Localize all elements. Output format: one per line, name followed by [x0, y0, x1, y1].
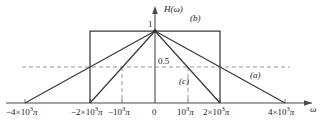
- tick-label-pos4-suffix: π: [290, 107, 295, 117]
- tick-label-neg2: −2×103π: [71, 108, 102, 117]
- tick-label-neg4-suffix: π: [33, 107, 38, 117]
- value-label-half: 0.5: [158, 57, 169, 66]
- tick-label-neg4-prefix: −4×10: [6, 107, 30, 117]
- tick-label-pos1-prefix: 10: [177, 107, 186, 117]
- tick-label-neg1: −103π: [108, 108, 130, 117]
- tick-label-pos4-prefix: 4×10: [268, 107, 287, 117]
- curve-label-c: (c): [179, 77, 189, 86]
- y-axis-arrowhead: [152, 6, 158, 14]
- tick-label-zero-prefix: 0: [152, 107, 157, 117]
- tick-label-pos2-prefix: 2×10: [203, 107, 222, 117]
- y-axis-label: H(ω): [164, 5, 183, 14]
- value-label-one: 1: [148, 20, 153, 29]
- frequency-response-figure: H(ω) ω 1 0.5 (a) (b) (c) −4×103π −2×103π…: [0, 0, 326, 137]
- apex-marker: [153, 29, 157, 33]
- tick-label-pos2: 2×103π: [203, 108, 229, 117]
- tick-label-neg4: −4×103π: [6, 108, 37, 117]
- tick-label-pos1: 103π: [177, 108, 194, 117]
- curve-label-a: (a): [250, 71, 261, 80]
- x-axis: [6, 100, 312, 106]
- curve-label-b: (b): [190, 14, 201, 23]
- tick-label-zero: 0: [152, 108, 157, 117]
- tick-label-pos4: 4×103π: [268, 108, 294, 117]
- tick-label-pos1-suffix: π: [189, 107, 194, 117]
- tick-label-neg2-suffix: π: [98, 107, 103, 117]
- y-axis: [152, 6, 158, 103]
- tick-label-pos2-suffix: π: [225, 107, 230, 117]
- tick-label-neg1-prefix: −10: [108, 107, 122, 117]
- tick-label-neg2-prefix: −2×10: [71, 107, 95, 117]
- x-axis-label: ω: [310, 105, 316, 114]
- tick-label-neg1-suffix: π: [125, 107, 130, 117]
